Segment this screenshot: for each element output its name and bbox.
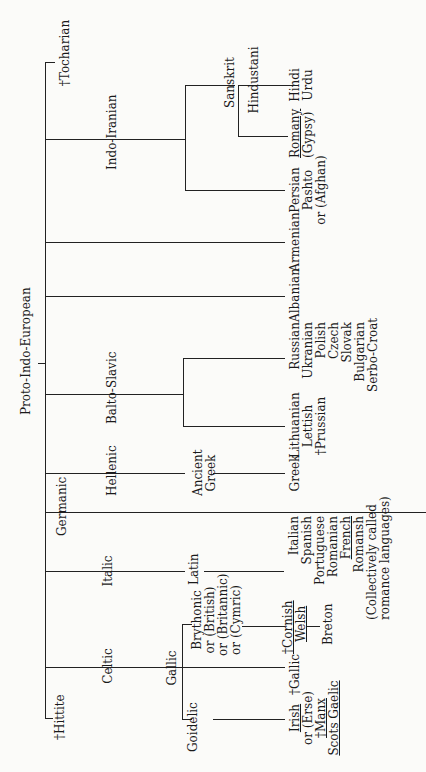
latin-line <box>204 571 284 572</box>
label-armenian: Armenian <box>289 212 302 272</box>
indo-iranian-fork <box>185 85 186 190</box>
label-tocharian: †Tocharian <box>59 13 72 93</box>
label-romany: Romany (Gypsy) <box>289 112 315 158</box>
label-hittite: †Hittite <box>54 696 67 740</box>
pie-tick <box>38 363 45 364</box>
label-breton: Breton <box>322 605 335 645</box>
label-italic: Italic <box>102 554 115 588</box>
label-hellenic: Hellenic <box>106 450 119 496</box>
label-gallic: Gallic <box>166 650 179 686</box>
romany-line <box>238 136 288 137</box>
label-greek: Greek <box>289 454 302 492</box>
label-latin: Latin <box>188 555 201 585</box>
balto-slavic-fork <box>183 358 184 426</box>
armenian-line <box>45 242 285 243</box>
label-albanian: Albanian <box>289 268 302 322</box>
label-germanic: Germanic <box>56 484 69 536</box>
label-indo-iranian: Indo-Iranian <box>106 100 119 170</box>
gallic-extinct-line <box>182 667 285 668</box>
label-balto-slavic: Balto-Slavic <box>106 360 119 424</box>
tocharian-line <box>45 62 55 63</box>
albanian-line <box>45 296 285 297</box>
label-celtic: Celtic <box>102 648 115 684</box>
label-baltic: Lithuanian Lettish †Prussian <box>289 394 328 458</box>
label-sanskrit: Sanskrit <box>224 58 237 108</box>
persian-line <box>185 190 285 191</box>
label-brythonic: Brythonic or (British) or (Britannic) or… <box>191 584 243 656</box>
label-hindustani: Hindustani <box>248 45 261 115</box>
trunk-line <box>45 62 46 719</box>
goidelic-line <box>213 719 285 720</box>
slavic-line <box>183 358 285 359</box>
label-goidelic-langs: Irish or (Erse) †Manx Scots Gaelic <box>289 680 341 756</box>
label-hindi-urdu: Hindi Urdu <box>289 65 315 105</box>
label-pie: Proto-Indo-European <box>20 305 33 415</box>
label-cornish-welsh: †Cornish Welsh <box>282 598 308 654</box>
ancient-greek-line <box>213 473 285 474</box>
breton-line <box>306 626 320 627</box>
label-goidelic: Goidelic <box>187 704 200 752</box>
gallic-fork <box>182 624 183 719</box>
sanskrit-fork <box>238 85 239 137</box>
baltic-line <box>183 426 285 427</box>
hittite-line <box>45 718 53 719</box>
label-slavic: Russian Ukranian Polish Czech Slovak Bul… <box>289 322 380 392</box>
brythonic-line <box>242 626 285 627</box>
italic-line <box>45 571 185 572</box>
label-ancient-greek: Ancient Greek <box>192 450 218 496</box>
